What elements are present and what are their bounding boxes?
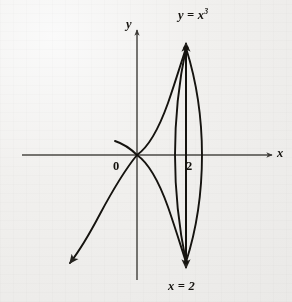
axes-group — [22, 30, 272, 280]
bottom-cusp-point — [184, 260, 188, 264]
graph-svg — [0, 0, 292, 302]
cubic-upper-right-branch — [137, 48, 186, 155]
cubic-lower-left-branch — [70, 155, 137, 263]
x-tick-2-label: 2 — [186, 159, 192, 174]
y-axis-label: y — [126, 17, 132, 32]
vertical-line-label: x = 2 — [168, 279, 195, 294]
reflected-upper-left-branch — [115, 141, 137, 155]
curve-label: y = x3 — [178, 7, 208, 23]
origin-label: 0 — [113, 159, 119, 174]
curve-label-lead: y = x — [178, 8, 204, 22]
curve-label-exponent: 3 — [204, 7, 208, 16]
figure-canvas: y = x3 x = 2 y x 0 2 — [0, 0, 292, 302]
top-cusp-point — [183, 45, 188, 50]
x-axis-label: x — [277, 146, 283, 161]
